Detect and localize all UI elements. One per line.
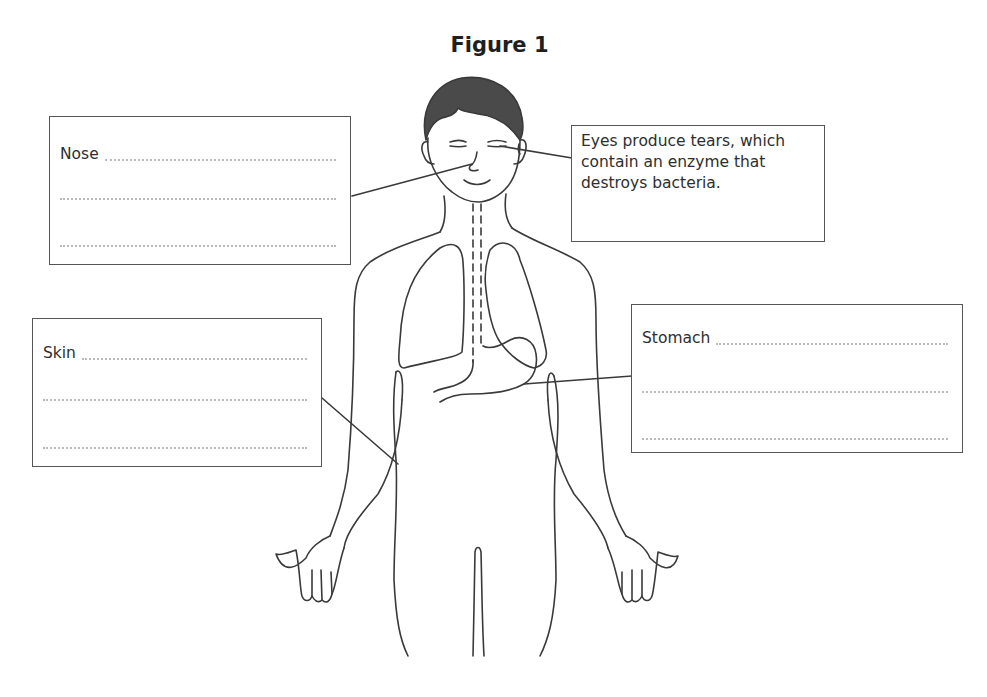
skin-answer-line-2[interactable] xyxy=(43,399,307,401)
hair xyxy=(425,77,523,140)
nose-answer-box: Nose xyxy=(49,116,351,265)
right-shoulder-arm xyxy=(512,228,626,536)
stomach-label-row: Stomach xyxy=(642,331,948,347)
nose xyxy=(469,152,478,171)
nose-answer-line-3[interactable] xyxy=(60,245,336,247)
nose-answer-line-2[interactable] xyxy=(60,198,336,200)
oesophagus xyxy=(434,360,473,392)
skin-answer-line-1[interactable] xyxy=(82,358,307,360)
nose-label-row: Nose xyxy=(60,147,336,163)
leg-gap xyxy=(473,548,484,657)
left-shoulder-arm xyxy=(330,232,440,536)
skin-pointer xyxy=(322,398,398,464)
neck-right xyxy=(505,194,512,228)
eyes-info-text: Eyes produce tears, which contain an enz… xyxy=(581,131,818,194)
stomach-answer-line-1[interactable] xyxy=(716,343,948,345)
nose-label: Nose xyxy=(60,147,99,163)
stomach-answer-box: Stomach xyxy=(631,304,963,453)
right-lung xyxy=(485,243,546,368)
stomach-pointer xyxy=(524,376,632,384)
skin-answer-box: Skin xyxy=(32,318,322,467)
mouth xyxy=(464,180,490,185)
stomach-label: Stomach xyxy=(642,331,710,347)
skin-label-row: Skin xyxy=(43,346,307,362)
stomach xyxy=(440,338,537,402)
skin-label: Skin xyxy=(43,346,76,362)
eyes-info-box: Eyes produce tears, which contain an enz… xyxy=(571,125,825,242)
left-eye xyxy=(450,141,466,143)
nose-pointer xyxy=(352,164,472,196)
neck-left xyxy=(440,196,445,232)
left-lung xyxy=(399,244,464,368)
stomach-answer-line-3[interactable] xyxy=(642,438,948,440)
nose-answer-line-1[interactable] xyxy=(105,159,336,161)
stomach-answer-line-2[interactable] xyxy=(642,391,948,393)
right-hand xyxy=(608,536,678,602)
right-forearm-inner xyxy=(548,400,608,548)
eye-pointer xyxy=(500,146,572,158)
left-hand xyxy=(276,536,344,602)
skin-answer-line-3[interactable] xyxy=(43,447,307,449)
right-eye xyxy=(488,141,506,143)
